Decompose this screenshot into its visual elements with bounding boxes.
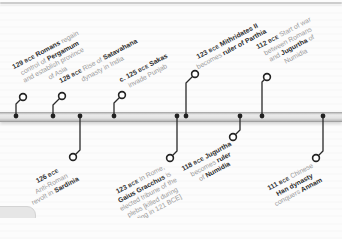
event-label-112-bce-jugurthine-war: 112 BCE Start of warbetween Romansand Ju… bbox=[255, 15, 325, 74]
event-label-segment-n: is bbox=[164, 170, 172, 178]
event-labels: 129 BCE Romans regaincontrol of Pergamum… bbox=[0, 0, 342, 218]
event-label-111-bce-han-annam: 111 BCE ChineseHan dynastyconquers Annam bbox=[265, 161, 324, 208]
event-label-118-bce-jugurtha-numidia: 118 BCE Jugurthabecomes rulerof Numidia bbox=[180, 140, 241, 188]
event-label-123-bce-gracchus: 123 BCE In Rome,Gaius Gracchus iselected… bbox=[110, 161, 186, 218]
event-label-126-bce-sardinia: 126 BCEAnti-Romanrevolt in Sardinia bbox=[23, 160, 81, 207]
event-label-segment-n: of bbox=[307, 33, 315, 42]
partial-pill-button[interactable] bbox=[0, 206, 36, 218]
